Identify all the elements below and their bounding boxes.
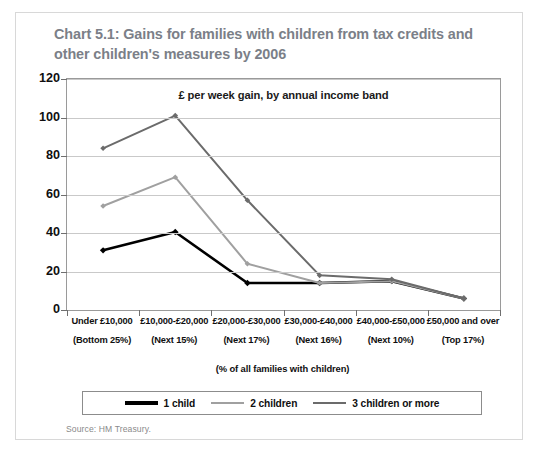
chart-figure: Chart 5.1: Gains for families with child…: [15, 12, 523, 440]
gridline: [67, 233, 500, 234]
x-tick-label-band: £50,000 and over: [409, 316, 517, 326]
y-tick-mark: [61, 118, 67, 119]
data-point-marker: [100, 203, 106, 209]
y-tick-mark: [61, 156, 67, 157]
y-tick-mark: [61, 195, 67, 196]
y-tick-label: 80: [24, 148, 60, 162]
y-tick-label: 20: [24, 264, 60, 278]
legend-swatch: [125, 401, 158, 404]
series-line: [103, 232, 464, 298]
gridline: [67, 118, 500, 119]
y-tick-label: 0: [24, 302, 60, 316]
x-tick-label-group: £50,000 and over(Top 17%): [409, 316, 517, 345]
data-point-marker: [317, 280, 323, 286]
y-tick-label: 40: [24, 225, 60, 239]
data-point-marker: [100, 247, 106, 253]
y-tick-label: 100: [24, 110, 60, 124]
page-title: Chart 5.1: Gains for families with child…: [54, 25, 494, 65]
legend-swatch: [313, 402, 346, 405]
y-tick-label: 120: [24, 71, 60, 85]
gridline: [67, 79, 500, 80]
y-tick-mark: [61, 272, 67, 273]
legend-label: 2 children: [250, 398, 297, 409]
y-tick-label: 60: [24, 187, 60, 201]
data-point-marker: [461, 296, 467, 302]
y-axis: 020406080100120: [20, 78, 60, 309]
legend-item[interactable]: 1 child: [125, 398, 196, 409]
legend-swatch: [211, 402, 244, 405]
gridline: [67, 156, 500, 157]
legend-label: 3 children or more: [352, 398, 439, 409]
x-axis: Under £10,000(Bottom 25%)£10,000-£20,000…: [66, 316, 501, 362]
y-tick-mark: [61, 233, 67, 234]
x-tick-label-share: (Top 17%): [409, 335, 517, 345]
source-note: Source: HM Treasury.: [66, 424, 151, 434]
gridline: [67, 195, 500, 196]
plot-area: £ per week gain, by annual income band: [66, 78, 501, 311]
gridline: [67, 272, 500, 273]
x-axis-caption: (% of all families with children): [66, 363, 499, 374]
legend-item[interactable]: 2 children: [211, 398, 297, 409]
legend-label: 1 child: [164, 398, 196, 409]
chart-subtitle: £ per week gain, by annual income band: [67, 89, 500, 101]
chart-legend: 1 child2 children3 children or more: [82, 391, 482, 415]
legend-item[interactable]: 3 children or more: [313, 398, 439, 409]
y-tick-mark: [61, 79, 67, 80]
